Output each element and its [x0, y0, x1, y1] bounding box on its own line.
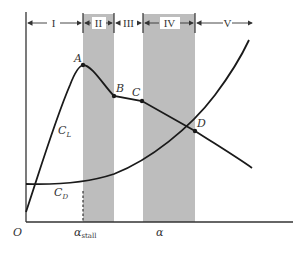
- region-label-iv: IV: [164, 17, 176, 29]
- x-axis-alpha-label: α: [156, 226, 164, 239]
- drag-curve-label: CD: [54, 186, 68, 201]
- region-iv-band: [143, 14, 195, 222]
- aerodynamic-coefficient-diagram: I II III IV V A B C D CL CD O αstall α: [0, 0, 295, 255]
- lift-curve-label: CL: [58, 124, 71, 139]
- region-label-v: V: [224, 17, 232, 29]
- point-d-label: D: [196, 117, 206, 130]
- region-ii-band: [83, 14, 114, 222]
- point-a-label: A: [73, 52, 82, 65]
- origin-label: O: [13, 226, 22, 239]
- point-c-label: C: [132, 86, 141, 99]
- alpha-stall-label: αstall: [74, 226, 97, 240]
- region-label-i: I: [52, 17, 56, 29]
- region-label-ii: II: [95, 17, 103, 29]
- point-c-marker: [140, 99, 144, 103]
- point-b-label: B: [115, 82, 124, 95]
- region-label-iii: III: [123, 17, 134, 29]
